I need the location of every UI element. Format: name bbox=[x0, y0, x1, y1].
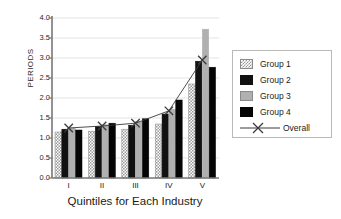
x-axis-title: Quintiles for Each Industry bbox=[40, 195, 230, 207]
legend-swatch-group-2 bbox=[240, 75, 253, 85]
x-tick-label: II bbox=[90, 181, 114, 190]
legend-label-group-3: Group 3 bbox=[260, 91, 291, 101]
bar bbox=[176, 100, 182, 178]
bar bbox=[62, 129, 68, 178]
legend-item-overall: Overall bbox=[240, 121, 330, 135]
bar bbox=[88, 131, 94, 178]
bar bbox=[102, 125, 108, 178]
bar bbox=[189, 84, 195, 178]
legend-label-overall: Overall bbox=[283, 123, 310, 133]
bar bbox=[95, 126, 101, 178]
legend-item-group-2: Group 2 bbox=[240, 73, 291, 87]
x-tick-label: IV bbox=[157, 181, 181, 190]
legend-item-group-1: Group 1 bbox=[240, 57, 291, 71]
bar bbox=[202, 29, 208, 178]
legend-item-group-4: Group 4 bbox=[240, 105, 291, 119]
legend-swatch-group-3 bbox=[240, 91, 253, 101]
legend-swatch-group-1 bbox=[240, 59, 253, 69]
bar bbox=[136, 122, 142, 178]
bar bbox=[76, 130, 82, 178]
legend-label-group-2: Group 2 bbox=[260, 75, 291, 85]
legend-swatch-group-4 bbox=[240, 107, 253, 117]
bar bbox=[55, 132, 61, 178]
chart-legend: Group 1 Group 2 Group 3 Group 4 Overall bbox=[232, 50, 332, 138]
bar bbox=[155, 124, 161, 178]
chart-figure: PERIODS 0.00.51.01.52.02.53.03.54.0 IIII… bbox=[0, 0, 341, 219]
legend-item-group-3: Group 3 bbox=[240, 89, 291, 103]
overall-line-series bbox=[65, 56, 207, 132]
bar bbox=[129, 125, 135, 178]
bar bbox=[122, 129, 128, 178]
x-tick-label: I bbox=[57, 181, 81, 190]
legend-label-group-1: Group 1 bbox=[260, 59, 291, 69]
bar bbox=[69, 128, 75, 178]
bar bbox=[109, 123, 115, 178]
bar-series-group bbox=[55, 29, 216, 178]
bar bbox=[209, 67, 215, 178]
bar bbox=[195, 61, 201, 178]
bar bbox=[142, 119, 148, 178]
x-tick-label: V bbox=[190, 181, 214, 190]
bar bbox=[169, 109, 175, 178]
legend-label-group-4: Group 4 bbox=[260, 107, 291, 117]
bar bbox=[162, 114, 168, 178]
x-tick-label: III bbox=[124, 181, 148, 190]
